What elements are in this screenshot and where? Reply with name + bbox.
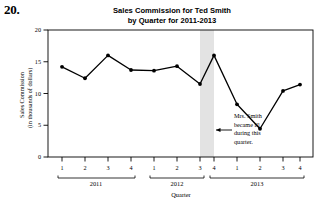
year-label-2011: 2011 bbox=[90, 180, 103, 187]
x-axis-title: Quarter bbox=[171, 191, 191, 198]
data-point bbox=[106, 54, 110, 58]
y-axis-title: Sales Commission (in thousands of dollar… bbox=[18, 68, 34, 128]
x-tick-label: 2 bbox=[83, 164, 86, 171]
x-axis-ticks bbox=[62, 157, 300, 162]
annotation-text: Mrs. Smith became ill during this quarte… bbox=[234, 112, 263, 145]
x-tick-label: 1 bbox=[152, 164, 155, 171]
data-line bbox=[62, 55, 300, 128]
data-point bbox=[212, 54, 216, 58]
x-axis-tick-labels: 1 2 3 4 1 2 3 4 1 2 3 4 bbox=[60, 164, 301, 171]
data-point bbox=[235, 102, 239, 106]
y-axis-ticks bbox=[44, 30, 49, 157]
year-label-2013: 2013 bbox=[251, 180, 264, 187]
annotation-line-2: became ill bbox=[234, 121, 260, 128]
annotation-line-1: Mrs. Smith bbox=[234, 112, 263, 119]
y-axis-title-line-2: (in thousands of dollars) bbox=[26, 68, 34, 128]
x-tick-label: 1 bbox=[235, 164, 238, 171]
x-tick-label: 3 bbox=[281, 164, 284, 171]
annotation-line-4: quarter. bbox=[234, 138, 253, 145]
x-tick-label: 4 bbox=[212, 164, 215, 171]
line-chart: 20 15 10 5 0 Sales Commission (in thousa… bbox=[0, 0, 321, 202]
year-label-2012: 2012 bbox=[171, 180, 184, 187]
x-tick-label: 3 bbox=[198, 164, 201, 171]
annotation-line-3: during this bbox=[234, 129, 261, 136]
x-tick-label: 2 bbox=[258, 164, 261, 171]
year-group-brackets bbox=[58, 176, 304, 179]
y-axis-title-line-1: Sales Commission bbox=[18, 72, 25, 118]
data-point bbox=[60, 65, 64, 69]
y-tick-label: 15 bbox=[35, 58, 41, 65]
data-point bbox=[298, 83, 302, 87]
year-group-labels: 2011 2012 2013 bbox=[90, 180, 264, 187]
y-tick-label: 20 bbox=[35, 26, 41, 33]
y-tick-label: 5 bbox=[38, 121, 41, 128]
shaded-region bbox=[200, 30, 214, 157]
y-tick-label: 10 bbox=[35, 90, 41, 97]
data-point bbox=[281, 89, 285, 93]
x-tick-label: 3 bbox=[106, 164, 109, 171]
annotation-arrow-icon bbox=[216, 128, 232, 132]
x-tick-label: 4 bbox=[129, 164, 132, 171]
x-tick-label: 2 bbox=[175, 164, 178, 171]
y-tick-label: 0 bbox=[38, 153, 41, 160]
data-point bbox=[198, 82, 202, 86]
data-point bbox=[83, 76, 87, 80]
x-tick-label: 1 bbox=[60, 164, 63, 171]
x-tick-label: 4 bbox=[298, 164, 301, 171]
data-point bbox=[152, 69, 156, 73]
data-point bbox=[129, 68, 133, 72]
y-axis-tick-labels: 20 15 10 5 0 bbox=[35, 26, 41, 160]
data-point bbox=[175, 64, 179, 68]
plot-frame bbox=[48, 30, 313, 157]
